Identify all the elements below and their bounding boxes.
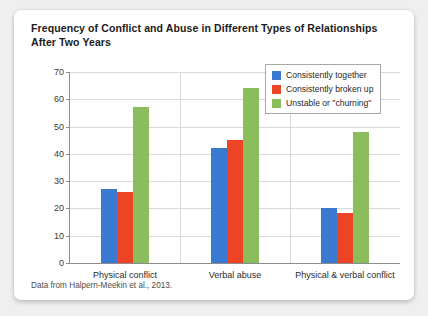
y-axis-tick-label: 10 xyxy=(54,231,64,241)
y-axis-tick-label: 40 xyxy=(54,149,64,159)
y-axis-tick-mark xyxy=(66,263,70,264)
legend-label: Consistently together xyxy=(286,70,367,80)
x-axis-category-label: Verbal abuse xyxy=(209,270,262,280)
legend-swatch xyxy=(272,99,281,108)
legend-swatch xyxy=(272,85,281,94)
bar xyxy=(353,132,369,263)
legend-item: Consistently together xyxy=(272,70,373,80)
bar xyxy=(243,88,259,263)
bar xyxy=(211,148,227,263)
y-axis-tick-label: 0 xyxy=(59,258,64,268)
chart-title: Frequency of Conflict and Abuse in Diffe… xyxy=(31,22,397,49)
y-axis-tick-label: 50 xyxy=(54,122,64,132)
bar xyxy=(227,140,243,263)
x-axis-category-label: Physical & verbal conflict xyxy=(295,270,395,280)
source-note: Data from Halpern-Meekin et al., 2013. xyxy=(31,281,172,290)
chart-card: Frequency of Conflict and Abuse in Diffe… xyxy=(14,10,414,300)
bar-group: Physical conflict xyxy=(70,72,180,263)
legend-label: Consistently broken up xyxy=(286,84,373,94)
y-axis-tick-label: 70 xyxy=(54,67,64,77)
legend-label: Unstable or "churning" xyxy=(286,98,371,108)
legend-swatch xyxy=(272,71,281,80)
y-axis-tick-label: 30 xyxy=(54,176,64,186)
y-axis-tick-label: 20 xyxy=(54,203,64,213)
category-separator xyxy=(180,72,181,263)
legend-item: Unstable or "churning" xyxy=(272,98,373,108)
bar xyxy=(337,213,353,263)
bar xyxy=(101,189,117,263)
legend-item: Consistently broken up xyxy=(272,84,373,94)
chart-legend: Consistently togetherConsistently broken… xyxy=(265,64,381,114)
bar xyxy=(117,192,133,263)
bar xyxy=(133,107,149,263)
bar xyxy=(321,208,337,263)
y-axis-tick-label: 60 xyxy=(54,94,64,104)
x-axis-category-label: Physical conflict xyxy=(93,270,157,280)
